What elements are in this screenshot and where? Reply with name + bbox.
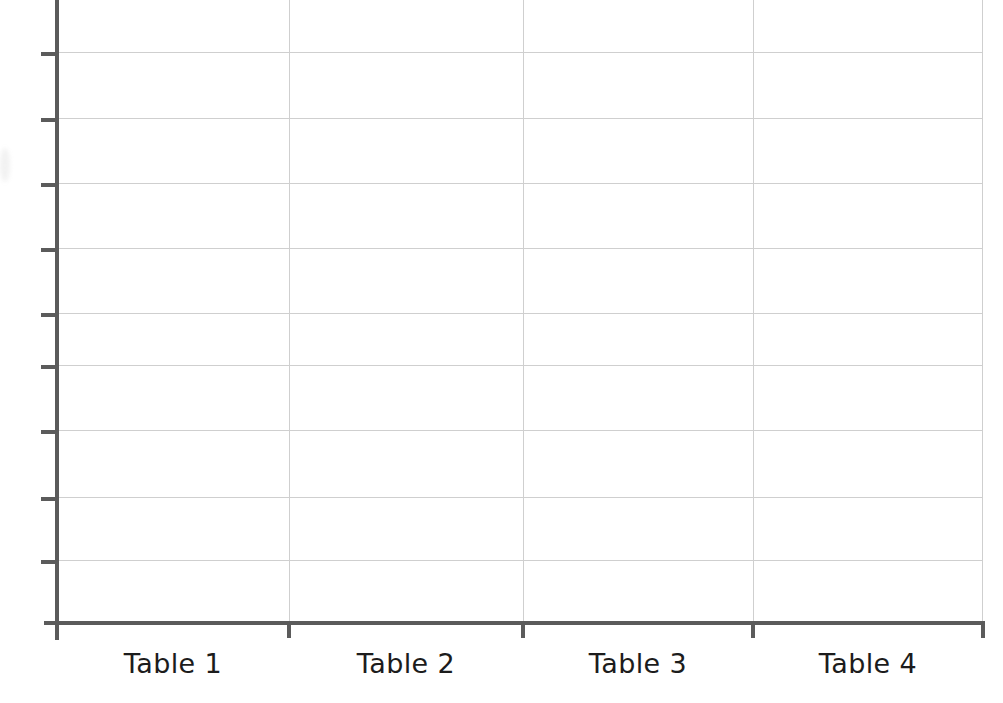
y-axis-tick bbox=[41, 118, 59, 122]
y-axis-tick bbox=[41, 365, 59, 369]
chart-canvas: Table 1 Table 2 Table 3 Table 4 bbox=[0, 0, 1003, 703]
y-axis-tick bbox=[41, 183, 59, 187]
scan-artifact-smudge bbox=[0, 148, 10, 182]
gridline-horizontal bbox=[57, 118, 983, 119]
x-axis-category-label-3: Table 3 bbox=[523, 647, 753, 681]
y-axis-tick bbox=[41, 52, 59, 56]
x-axis-tick bbox=[981, 621, 985, 638]
x-axis-category-label-2: Table 2 bbox=[289, 647, 523, 681]
gridline-vertical bbox=[753, 0, 754, 623]
gridline-horizontal bbox=[57, 183, 983, 184]
y-axis-tick bbox=[41, 497, 59, 501]
gridline-horizontal bbox=[57, 497, 983, 498]
plot-area bbox=[57, 0, 983, 623]
y-axis-line bbox=[55, 0, 59, 640]
gridline-horizontal bbox=[57, 560, 983, 561]
x-axis-tick bbox=[751, 621, 755, 638]
gridline-horizontal bbox=[57, 248, 983, 249]
x-axis-line bbox=[44, 621, 985, 625]
y-axis-tick bbox=[41, 560, 59, 564]
x-axis-category-label-1: Table 1 bbox=[57, 647, 289, 681]
y-axis-tick bbox=[41, 430, 59, 434]
y-axis-tick bbox=[41, 248, 59, 252]
x-axis-tick bbox=[521, 621, 525, 638]
gridline-horizontal bbox=[57, 430, 983, 431]
gridline-horizontal bbox=[57, 52, 983, 53]
gridline-vertical bbox=[289, 0, 290, 623]
x-axis-category-label-4: Table 4 bbox=[753, 647, 983, 681]
y-axis-tick bbox=[41, 313, 59, 317]
gridline-vertical bbox=[982, 0, 983, 623]
x-axis-tick bbox=[287, 621, 291, 638]
gridline-vertical bbox=[523, 0, 524, 623]
gridline-horizontal bbox=[57, 313, 983, 314]
gridline-horizontal bbox=[57, 365, 983, 366]
